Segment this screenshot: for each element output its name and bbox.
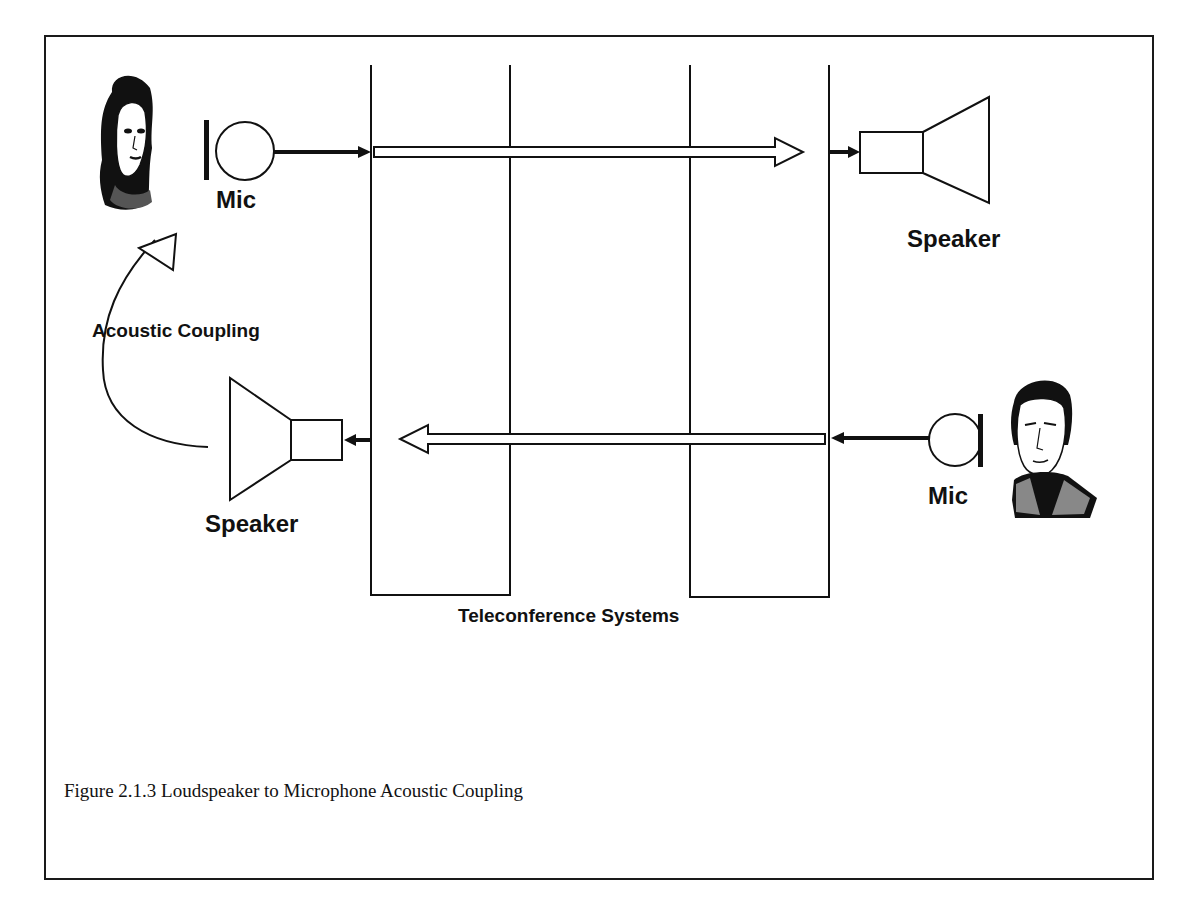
arrow-hollow-bottom [400,425,825,453]
arrow-system-to-speaker-left [344,434,371,446]
arrow-system-to-speaker-right [829,146,860,158]
mic-right-icon [929,414,983,467]
arrow-hollow-top [374,138,803,166]
speaker-left-icon [230,378,342,500]
label-mic-top: Mic [216,186,256,214]
figure-caption: Figure 2.1.3 Loudspeaker to Microphone A… [64,780,523,802]
arrow-mic-left-to-system [274,146,371,158]
mic-left-icon [204,120,274,180]
label-speaker-top: Speaker [907,225,1000,253]
label-speaker-bottom: Speaker [205,510,298,538]
label-acoustic-coupling: Acoustic Coupling [92,320,260,342]
label-teleconference-systems: Teleconference Systems [458,605,679,627]
label-mic-bottom: Mic [928,482,968,510]
diagram-canvas [0,0,1195,905]
speaker-right-icon [860,97,989,203]
female-person-icon [100,76,153,210]
male-person-icon [1011,381,1097,518]
teleconf-system-left-box [371,65,510,595]
arrow-mic-right-to-system [831,432,930,444]
teleconf-system-right-box [690,65,829,597]
